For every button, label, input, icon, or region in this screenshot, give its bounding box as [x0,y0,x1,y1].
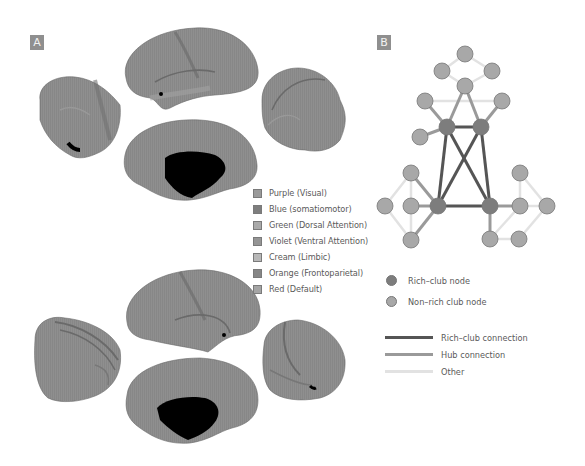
brain-network-legend: Purple (Visual) Blue (somatiomotor) Gree… [253,185,368,297]
brain-bottom-right-view [263,320,345,400]
legend-item: Orange (Frontoparietal) [253,265,368,281]
legend-item: Cream (Limbic) [253,249,368,265]
legend-item: Red (Default) [253,281,368,297]
non-rich-club-node [494,93,510,109]
legend-item: Violet (Ventral Attention) [253,233,368,249]
brain-bottom-lateral-center [126,270,260,352]
non-rich-club-node [417,93,433,109]
legend-hub-connection: Hub connection [385,346,528,363]
panel-label-b: B [377,35,391,50]
non-rich-club-node [539,198,555,214]
non-rich-club-node [403,232,419,248]
non-rich-club-node [377,198,393,214]
non-rich-club-node [511,231,527,247]
network-legend: Rich–club node Non–rich club node Rich–c… [385,270,528,380]
legend-swatch [253,237,262,246]
brain-top-lateral-center [125,28,258,109]
non-rich-club-node [484,63,500,79]
legend-rich-club-node: Rich–club node [385,270,528,291]
non-rich-club-node [403,165,419,181]
non-rich-club-node [457,78,473,94]
brain-bottom-medial-view [126,358,258,443]
panel-label-a: A [30,35,44,50]
non-rich-club-node [412,129,428,145]
rich-edge-icon [385,336,433,339]
legend-swatch [253,189,262,198]
rich-club-node [439,119,455,135]
legend-swatch [253,205,262,214]
non-rich-node-icon [386,296,397,307]
rich-club-node [430,198,446,214]
legend-swatch [253,253,262,262]
non-rich-club-node [512,198,528,214]
legend-item: Purple (Visual) [253,185,368,201]
non-rich-club-node [457,46,473,62]
legend-non-rich-club-node: Non–rich club node [385,291,528,312]
legend-other-connection: Other [385,363,528,380]
brain-top-right-view [262,68,345,151]
non-rich-club-node [512,165,528,181]
legend-item: Blue (somatiomotor) [253,201,368,217]
brain-top-left-view [40,77,120,158]
hub-edge-icon [385,353,433,356]
legend-swatch [253,269,262,278]
other-edge-icon [385,370,433,373]
legend-swatch [253,285,262,294]
network-nodes [377,46,555,248]
rich-club-node [482,198,498,214]
rich-club-node [473,119,489,135]
non-rich-club-node [434,63,450,79]
legend-swatch [253,221,262,230]
legend-rich-club-connection: Rich–club connection [385,329,528,346]
non-rich-club-node [403,198,419,214]
brain-top-medial-view [124,120,257,200]
brain-bottom-left-view [35,317,121,401]
non-rich-club-node [482,231,498,247]
rich-node-icon [386,275,397,286]
legend-item: Green (Dorsal Attention) [253,217,368,233]
